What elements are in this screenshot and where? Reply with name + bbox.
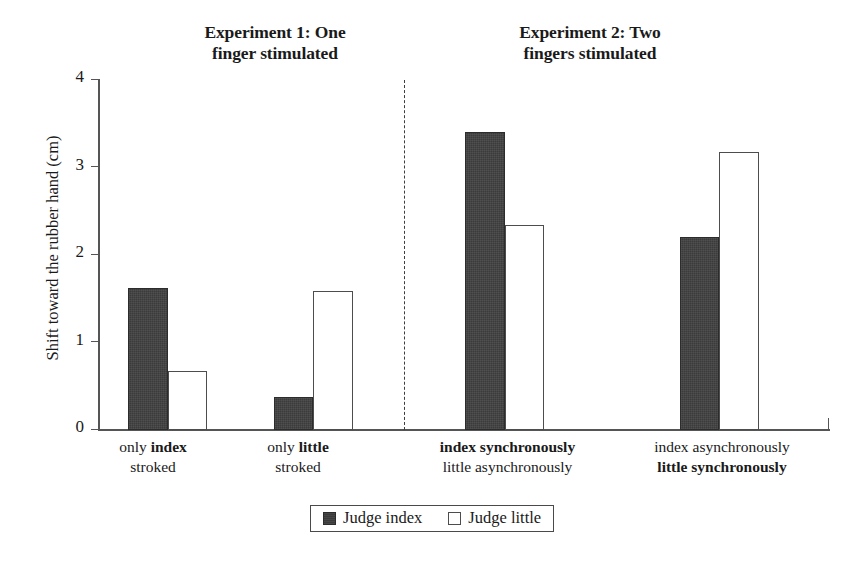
y-tick-mark-1 [91, 341, 99, 342]
chart-legend: Judge index Judge little [310, 505, 554, 532]
y-tick-mark-2 [91, 254, 99, 255]
x-axis-right-cap [828, 418, 829, 430]
x-category-label-1: only index stroked [98, 437, 208, 477]
panel-title-line1: Experiment 2: Two [519, 22, 661, 42]
x-label-4-line1-plain: index asynchronously [654, 438, 790, 455]
bar-chart-figure: Experiment 1: One finger stimulated Expe… [0, 0, 858, 570]
bar-exp2-cat4-judge-little [719, 152, 759, 430]
x-category-label-4: index asynchronously little synchronousl… [627, 437, 817, 477]
x-label-2-line1-plain: only [267, 438, 298, 455]
panel-title-line2: fingers stimulated [524, 43, 657, 63]
x-label-2-line2-plain: stroked [275, 458, 321, 475]
y-tick-label-0: 0 [44, 417, 84, 437]
bar-exp1-cat2-judge-little [313, 291, 353, 430]
x-label-3-line1-bold: index synchronously [440, 438, 575, 455]
legend-entry-judge-index: Judge index [323, 509, 422, 527]
panel-divider-dashed-line [404, 80, 405, 430]
x-category-label-2: only little stroked [243, 437, 353, 477]
bar-exp1-cat1-judge-little [168, 371, 207, 430]
bar-exp2-cat4-judge-index [680, 237, 719, 430]
x-label-3-line2-plain: little asynchronously [443, 458, 573, 475]
legend-entry-judge-little: Judge little [448, 509, 541, 527]
y-tick-label-2: 2 [44, 242, 84, 262]
x-label-2-line1-bold: little [299, 438, 329, 455]
y-tick-mark-3 [91, 166, 99, 167]
x-label-1-line1-bold: index [151, 438, 187, 455]
y-tick-label-3: 3 [44, 155, 84, 175]
x-label-4-line2-bold: little synchronously [657, 458, 786, 475]
x-category-label-3: index synchronously little asynchronousl… [415, 437, 600, 477]
y-tick-label-1: 1 [44, 330, 84, 350]
panel-title-line1: Experiment 1: One [204, 22, 345, 42]
panel-title-experiment-1: Experiment 1: One finger stimulated [125, 22, 425, 63]
panel-title-experiment-2: Experiment 2: Two fingers stimulated [430, 22, 750, 63]
y-tick-label-4: 4 [44, 67, 84, 87]
panel-title-line2: finger stimulated [212, 43, 338, 63]
legend-swatch-light-icon [448, 512, 461, 525]
bar-exp1-cat2-judge-index [274, 397, 313, 430]
legend-label-judge-index: Judge index [343, 509, 422, 527]
x-label-1-line2-plain: stroked [130, 458, 176, 475]
y-tick-mark-4 [91, 79, 99, 80]
bar-exp2-cat3-judge-index [465, 132, 505, 430]
legend-swatch-dark-icon [323, 512, 336, 525]
bar-exp2-cat3-judge-little [505, 225, 544, 430]
x-axis-left-cap [98, 418, 99, 430]
x-label-1-line1-plain: only [119, 438, 150, 455]
legend-label-judge-little: Judge little [468, 509, 541, 527]
bar-exp1-cat1-judge-index [128, 288, 168, 430]
